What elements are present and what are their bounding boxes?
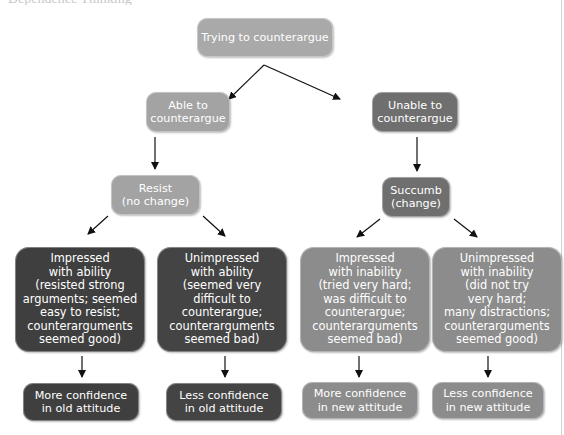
node-impressed-with-ability: Impressed with ability (resisted strong … (15, 247, 145, 352)
node-more-confidence-old-attitude: More confidence in old attitude (23, 383, 139, 421)
arrow-resist-to-impressed (88, 216, 108, 234)
arrow-resist-to-unimpressed (203, 216, 225, 236)
node-label: Less confidence in new attitude (443, 387, 532, 414)
connector-arrows (0, 0, 564, 435)
node-label: Unimpressed with ability (seemed very di… (169, 252, 274, 347)
node-impressed-with-inability: Impressed with inability (tried very har… (300, 247, 430, 352)
node-unable-to-counterargue: Unable to counterargue (372, 92, 458, 132)
node-unimpressed-with-inability: Unimpressed with inability (did not try … (432, 247, 562, 352)
node-label: Trying to counterargue (201, 31, 328, 44)
node-label: More confidence in old attitude (35, 389, 128, 416)
node-trying-to-counterargue: Trying to counterargue (197, 18, 333, 57)
node-resist: Resist (no change) (111, 175, 200, 215)
arrow-succumb-to-unimpressed (454, 219, 477, 237)
node-label: Succumb (change) (390, 184, 442, 211)
arrow-root-to-able (229, 65, 264, 99)
node-unimpressed-with-ability: Unimpressed with ability (seemed very di… (157, 247, 287, 352)
arrow-root-to-unable (264, 65, 340, 99)
node-able-to-counterargue: Able to counterargue (146, 92, 230, 132)
node-succumb: Succumb (change) (382, 177, 450, 217)
node-label: Resist (no change) (122, 182, 189, 209)
node-label: Able to counterargue (150, 99, 225, 126)
node-label: More confidence in new attitude (314, 387, 407, 414)
node-label: Unable to counterargue (377, 99, 452, 126)
node-label: Less confidence in old attitude (179, 389, 268, 416)
node-more-confidence-new-attitude: More confidence in new attitude (302, 382, 418, 419)
node-label: Impressed with inability (tried very har… (312, 252, 417, 347)
arrow-succumb-to-impressed (357, 219, 380, 237)
node-label: Unimpressed with inability (did not try … (444, 252, 550, 347)
node-less-confidence-new-attitude: Less confidence in new attitude (432, 382, 544, 419)
node-less-confidence-old-attitude: Less confidence in old attitude (166, 383, 282, 421)
node-label: Impressed with ability (resisted strong … (23, 252, 137, 347)
